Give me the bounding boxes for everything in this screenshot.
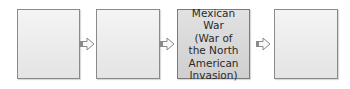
box-1-label — [18, 10, 79, 78]
box-2-label — [97, 10, 159, 78]
arrow-right-icon — [160, 37, 176, 51]
box-1 — [17, 9, 80, 79]
box-3-label: Mexican War (War of the North American I… — [178, 10, 249, 78]
arrow-right-icon — [80, 37, 96, 51]
box-4 — [274, 9, 338, 79]
box-2 — [96, 9, 160, 79]
box-4-label — [275, 10, 337, 78]
box-3-mexican-war: Mexican War (War of the North American I… — [177, 9, 250, 79]
arrow-right-icon — [256, 37, 272, 51]
